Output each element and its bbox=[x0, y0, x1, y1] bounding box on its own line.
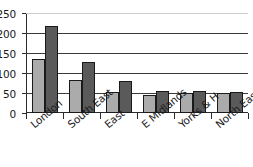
y-axis-tick: 250 bbox=[22, 13, 26, 14]
bar bbox=[32, 59, 45, 113]
y-axis-tick: 50 bbox=[22, 93, 26, 94]
x-axis-tick bbox=[211, 113, 212, 119]
x-axis-tick bbox=[100, 113, 101, 119]
gridline bbox=[26, 53, 248, 54]
x-axis-tick bbox=[63, 113, 64, 119]
y-axis-tick-label: 100 bbox=[0, 68, 16, 80]
gridline bbox=[26, 33, 248, 34]
y-axis-tick-label: 150 bbox=[0, 48, 16, 60]
x-axis-tick bbox=[26, 113, 27, 119]
x-axis-tick bbox=[248, 113, 249, 119]
bar-chart: 050100150200250 LondonSouth EastEastE Mi… bbox=[0, 0, 253, 167]
gridline bbox=[26, 73, 248, 74]
y-axis-tick-label: 50 bbox=[3, 88, 16, 100]
y-axis-tick: 100 bbox=[22, 73, 26, 74]
y-axis-tick: 200 bbox=[22, 33, 26, 34]
x-axis-tick bbox=[137, 113, 138, 119]
y-axis-tick-label: 0 bbox=[10, 108, 16, 120]
gridline bbox=[26, 13, 248, 14]
y-axis-tick-label: 250 bbox=[0, 8, 16, 20]
y-axis-tick: 150 bbox=[22, 53, 26, 54]
y-axis-tick-label: 200 bbox=[0, 28, 16, 40]
x-axis-tick bbox=[174, 113, 175, 119]
